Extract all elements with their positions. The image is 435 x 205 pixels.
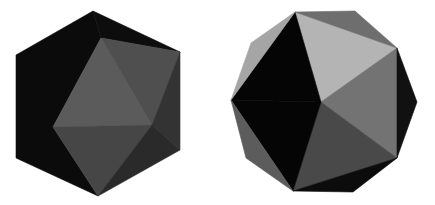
figure-canvas [0,0,435,205]
polyhedron-face [397,48,417,158]
icosahedron-vertex-view [16,11,180,196]
icosahedron-face-view [231,11,417,192]
icosahedron-figure [0,0,435,205]
